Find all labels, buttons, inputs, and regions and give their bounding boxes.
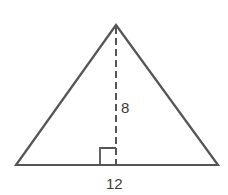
height-label: 8: [121, 99, 129, 116]
right-angle-marker: [100, 148, 116, 165]
triangle-diagram: 8 12: [0, 0, 228, 195]
base-label: 12: [106, 175, 123, 192]
